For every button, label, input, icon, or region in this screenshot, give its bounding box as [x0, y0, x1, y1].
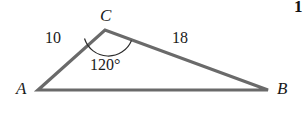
- corner-number-mark: 1: [294, 0, 303, 15]
- triangle-figure: C A B 10 18 120° 1: [0, 0, 305, 121]
- vertex-label-c: C: [100, 7, 111, 24]
- vertex-label-a: A: [16, 80, 26, 97]
- side-length-label-ca: 10: [45, 30, 61, 46]
- angle-measure-label-c: 120°: [90, 57, 120, 73]
- triangle-outline: [38, 30, 268, 90]
- triangle-graphic: [0, 0, 305, 121]
- vertex-label-b: B: [277, 80, 287, 97]
- side-length-label-cb: 18: [172, 30, 188, 46]
